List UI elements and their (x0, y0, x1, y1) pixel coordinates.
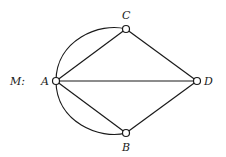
edge-a-c-straight (56, 29, 126, 81)
node-c (123, 26, 130, 33)
node-b (123, 130, 130, 137)
node-b-label: B (121, 141, 130, 154)
edge-b-d (126, 81, 197, 133)
graph-name-label: M: (9, 75, 25, 88)
multigraph-diagram: M: A B C D (0, 0, 226, 157)
node-a-label: A (40, 75, 49, 88)
edge-a-b-straight (56, 81, 126, 133)
node-d-label: D (203, 75, 213, 88)
node-d (194, 78, 201, 85)
edge-c-d (126, 29, 197, 81)
node-c-label: C (122, 9, 131, 22)
node-a (53, 78, 60, 85)
